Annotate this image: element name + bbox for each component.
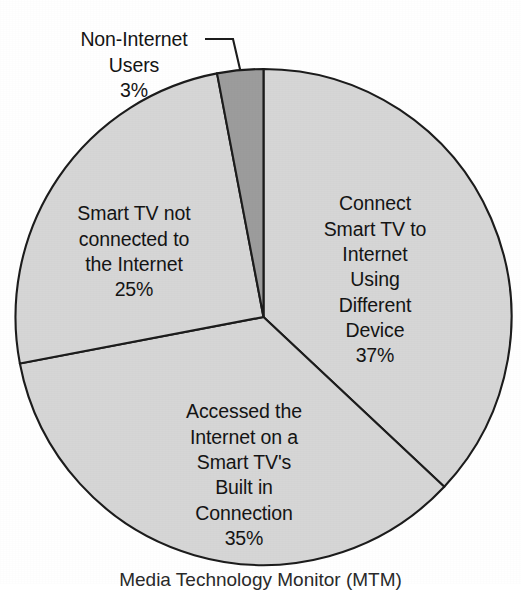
slice-label-text: Smart TV not connected to the Internet: [77, 202, 190, 275]
slice-value-text: 35%: [136, 526, 352, 551]
slice-value-text: 3%: [44, 78, 224, 103]
slice-value-text: 25%: [36, 277, 232, 302]
slice-value-text: 37%: [290, 343, 460, 368]
slice-label-not-connected: Smart TV not connected to the Internet 2…: [36, 176, 232, 328]
source-caption: Media Technology Monitor (MTM): [0, 569, 521, 591]
slice-label-non-internet-users: Non-Internet Users 3%: [44, 2, 224, 129]
slice-label-text: Non-Internet Users: [80, 28, 187, 75]
slice-label-built-in-connection: Accessed the Internet on a Smart TV's Bu…: [136, 374, 352, 577]
slice-label-text: Accessed the Internet on a Smart TV's Bu…: [186, 400, 302, 523]
slice-label-connect-different-device: Connect Smart TV to Internet Using Diffe…: [290, 166, 460, 394]
slice-label-text: Connect Smart TV to Internet Using Diffe…: [324, 192, 427, 341]
